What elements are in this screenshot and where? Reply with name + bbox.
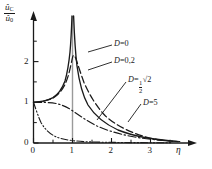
x-tick-label-2: 2 <box>109 146 114 155</box>
leader-D-half-sqrt2 <box>97 82 126 120</box>
leader-D-5 <box>128 104 141 122</box>
equals-h: = <box>134 75 139 84</box>
x-axis-label: η <box>176 146 181 156</box>
y-tick-label-2: 2 <box>24 57 29 66</box>
x-tick-label-1: 1 <box>70 146 75 155</box>
fraction-denominator: 2 <box>139 87 142 94</box>
axes <box>30 11 197 146</box>
x-tick-label-3: 3 <box>148 146 153 155</box>
D-value-02: 0,2 <box>125 56 135 65</box>
curve-D-half-sqrt2 <box>34 102 183 141</box>
curve-D-0-left <box>34 16 73 102</box>
x-tick-label-0: 0 <box>31 146 36 155</box>
curve-label-D-02: D=0,2 <box>114 57 135 65</box>
radical-sqrt2: √2 <box>143 75 152 84</box>
D-value-5: 5 <box>154 98 158 107</box>
curve-label-D-half-sqrt2: D=12√2 <box>128 76 151 94</box>
fraction-numerator: 1 <box>139 80 142 87</box>
curve-label-D-5: D=5 <box>143 99 158 107</box>
chart-figure: ûC û0 <box>0 0 212 169</box>
y-tick-label-1: 1 <box>24 97 29 106</box>
D-value-0: 0 <box>125 39 129 48</box>
x-axis-arrowhead <box>188 140 197 146</box>
y-tick-label-0: 0 <box>24 138 29 147</box>
y-axis-arrowhead <box>30 11 36 20</box>
curve-D-5 <box>34 102 173 143</box>
plot-area <box>0 0 212 169</box>
curve-label-D-0: D=0 <box>114 40 129 48</box>
leader-D-02 <box>88 62 112 70</box>
one-half-fraction: 12 <box>139 80 142 95</box>
curve-D-0-right <box>74 16 176 141</box>
leader-D-0 <box>88 45 112 52</box>
